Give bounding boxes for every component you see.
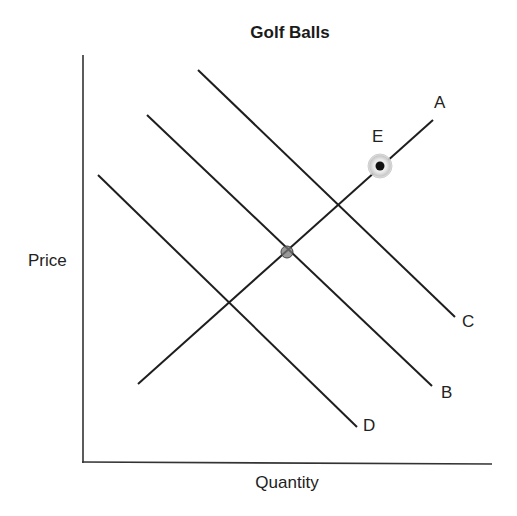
curve-d [98, 175, 357, 427]
point-intersection-ab [281, 246, 293, 258]
x-axis [82, 462, 492, 464]
curve-label-a: A [434, 93, 446, 112]
curve-label-d: D [363, 416, 375, 435]
curve-label-b: B [441, 383, 452, 402]
point-label-e: E [372, 127, 383, 146]
x-axis-label: Quantity [255, 473, 319, 492]
points-group: E [281, 127, 392, 258]
curve-label-c: C [462, 312, 474, 331]
chart-title: Golf Balls [250, 23, 329, 42]
supply-demand-diagram: Golf Balls Price Quantity ABCD E [0, 0, 517, 516]
point-e-dot [376, 162, 385, 171]
curve-c [198, 70, 455, 317]
y-axis-label: Price [28, 251, 67, 270]
